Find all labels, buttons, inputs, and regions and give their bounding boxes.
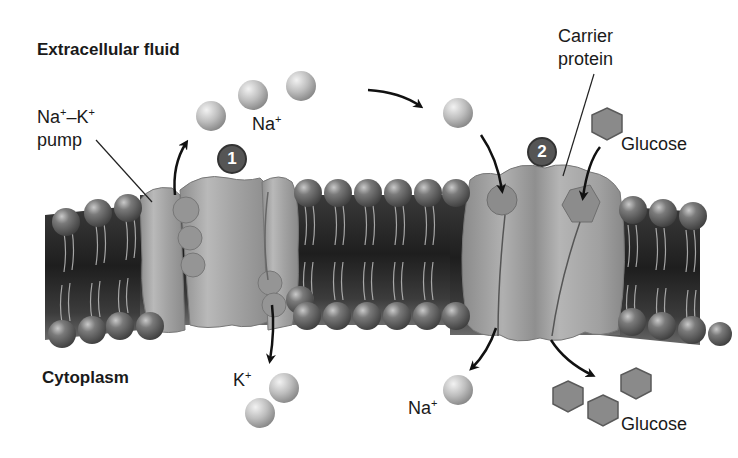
cytoplasm-label: Cytoplasm — [42, 368, 129, 388]
pump-label: pump — [37, 130, 82, 150]
extracellular-fluid-label: Extracellular fluid — [37, 40, 180, 60]
na-k-pump — [140, 177, 298, 333]
na-k-pump-label: Na+–K+ — [37, 107, 95, 127]
k-bottom-label: K+ — [233, 370, 251, 390]
step-1-badge: 1 — [217, 144, 247, 174]
step-2-badge: 2 — [527, 137, 557, 167]
carrier-label: Carrier — [558, 26, 613, 46]
na-ion-bottom — [443, 375, 473, 405]
protein-label: protein — [558, 49, 613, 69]
na-ions-top — [196, 71, 473, 131]
na-bottom-label: Na+ — [408, 398, 437, 418]
glucose-top-label: Glucose — [621, 134, 687, 154]
glucose-bottom-label: Glucose — [621, 414, 687, 434]
na-top-label: Na+ — [252, 114, 281, 134]
membrane-diagram — [0, 0, 738, 458]
k-ions-bottom — [245, 373, 299, 428]
carrier-protein — [462, 165, 625, 341]
